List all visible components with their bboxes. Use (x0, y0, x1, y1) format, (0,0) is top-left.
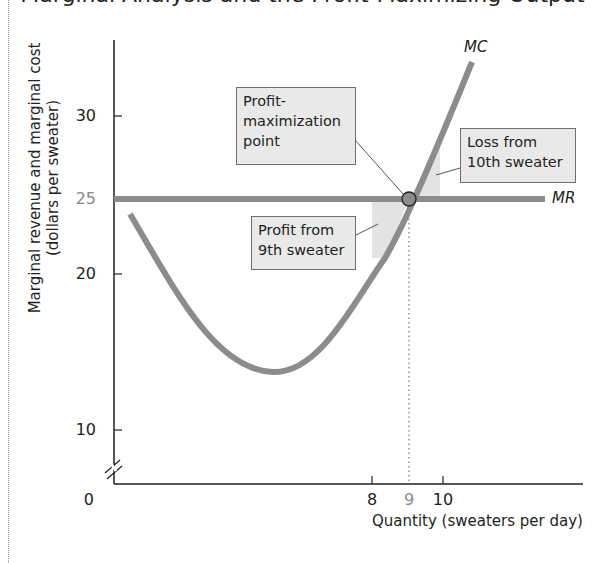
y-axis-label: Marginal revenue and marginal cost (doll… (26, 28, 62, 328)
profit-maximization-point (402, 192, 416, 206)
callout-profit-line1: Profit from (258, 220, 349, 240)
mc-label: MC (464, 38, 487, 56)
y-axis-label-line2: (dollars per sweater) (44, 28, 62, 328)
callout-loss-line2: 10th sweater (467, 152, 569, 172)
x-tick-label-9: 9 (394, 491, 424, 509)
chart-figure: Marginal Analysis and the Profit-Maximiz… (0, 0, 605, 563)
leader-max-point (355, 140, 404, 195)
origin-label: 0 (54, 491, 94, 509)
callout-loss-10th-sweater: Loss from 10th sweater (460, 128, 576, 183)
x-tick-label-8: 8 (357, 491, 387, 509)
y-tick-label-20: 20 (56, 265, 96, 283)
callout-max-line2: maximization (243, 111, 349, 131)
y-tick-label-30: 30 (56, 107, 96, 125)
callout-loss-line1: Loss from (467, 132, 569, 152)
y-ticks (114, 116, 122, 430)
callout-profit-9th-sweater: Profit from 9th sweater (251, 216, 356, 270)
callout-max-line3: point (243, 131, 349, 151)
y-tick-label-25: 25 (56, 190, 96, 208)
y-axis-label-line1: Marginal revenue and marginal cost (26, 28, 44, 328)
x-tick-label-10: 10 (428, 491, 458, 509)
callout-profit-line2: 9th sweater (258, 240, 349, 260)
y-tick-label-10: 10 (56, 421, 96, 439)
x-axis-label: Quantity (sweaters per day) (372, 512, 583, 530)
x-ticks (372, 476, 443, 484)
callout-profit-maximization-point: Profit- maximization point (236, 87, 356, 165)
callout-max-line1: Profit- (243, 91, 349, 111)
mr-label: MR (552, 189, 575, 207)
